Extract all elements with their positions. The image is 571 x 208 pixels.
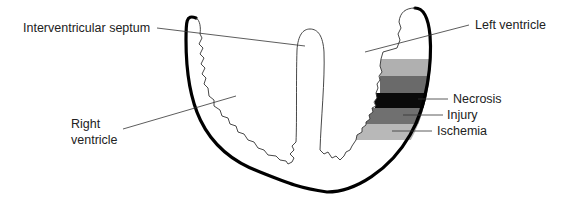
- myocardial-infarction-diagram: Interventricular septum Left ventricle R…: [0, 0, 571, 208]
- zone-injury-upper: [380, 76, 440, 93]
- label-interventricular-septum: Interventricular septum: [23, 20, 150, 36]
- zone-injury-lower: [365, 108, 440, 124]
- right-ventricle-endocardium: [196, 18, 296, 164]
- label-injury: Injury: [447, 107, 478, 123]
- label-left-ventricle: Left ventricle: [475, 17, 546, 33]
- label-right-ventricle: Right ventricle: [71, 116, 118, 148]
- leader-line-septum: [157, 28, 305, 46]
- leader-line-left-ventricle: [365, 25, 469, 52]
- label-ischemia: Ischemia: [437, 123, 487, 139]
- label-necrosis: Necrosis: [453, 91, 502, 107]
- interventricular-septum-outline: [296, 29, 324, 150]
- leader-line-right-ventricle: [123, 96, 236, 129]
- zone-ischemia-lower: [355, 124, 440, 140]
- zone-necrosis: [375, 93, 440, 108]
